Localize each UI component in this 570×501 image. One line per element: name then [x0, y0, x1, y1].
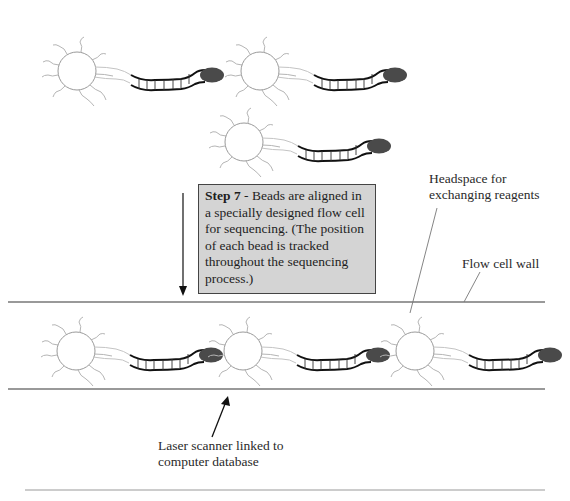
laser-arrow-icon — [212, 396, 230, 437]
headspace-label: Headspace for exchanging reagents — [429, 171, 540, 203]
headspace-label-line2: exchanging reagents — [429, 187, 540, 203]
laser-label-line1: Laser scanner linked to — [158, 438, 284, 454]
bead-with-dna-3 — [209, 108, 391, 177]
aligned-bead-2 — [208, 317, 390, 386]
step-7-callout-box: Step 7 - Beads are aligned in a speciall… — [198, 184, 376, 294]
bead-with-dna-1 — [42, 37, 224, 106]
step-separator: - — [241, 188, 252, 203]
down-arrow-icon — [179, 193, 187, 296]
laser-scanner-label: Laser scanner linked to computer databas… — [158, 438, 284, 470]
laser-label-line2: computer database — [158, 454, 284, 470]
flow-cell-wall-label: Flow cell wall — [462, 256, 539, 272]
headspace-label-line1: Headspace for — [429, 171, 540, 187]
bead-with-dna-2 — [225, 37, 407, 106]
aligned-bead-3 — [380, 317, 562, 386]
flow-cell-wall-leader-line — [464, 272, 480, 302]
headspace-leader-line — [410, 208, 437, 313]
step-label: Step 7 — [205, 188, 241, 203]
aligned-bead-1 — [41, 317, 223, 386]
